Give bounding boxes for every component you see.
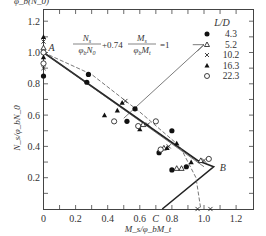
svg-text:=1: =1 xyxy=(160,40,170,50)
legend-label: 5.2 xyxy=(225,40,237,50)
filled-circle-marker xyxy=(184,164,189,169)
filled-triangle-marker xyxy=(102,113,107,118)
svg-text:φbMt: φbMt xyxy=(133,45,150,56)
x-tick-label: 0 xyxy=(41,213,46,224)
filled-circle-marker xyxy=(169,128,174,133)
y-axis-title: N_s/φ_bN_0 xyxy=(12,105,22,152)
cross-marker xyxy=(205,53,209,57)
filled-triangle-marker xyxy=(205,63,210,68)
svg-text:Ms: Ms xyxy=(136,33,148,44)
legend-item: 10.2 xyxy=(205,50,240,60)
open-circle-marker xyxy=(205,74,210,79)
legend-item: 4.3 xyxy=(205,29,238,39)
legend-label: 10.2 xyxy=(223,50,240,60)
equation-annotation: NsφbN0+0.74MsφbMt=1 xyxy=(73,33,170,56)
y-tick-label: 1.0 xyxy=(28,47,41,58)
design-curve-ABC xyxy=(44,53,214,210)
filled-circle-marker xyxy=(124,119,129,124)
svg-text:φbN0: φbN0 xyxy=(79,45,96,56)
y-tick-label: 0.8 xyxy=(28,78,41,89)
open-circle-marker xyxy=(206,156,211,161)
open-circle-marker xyxy=(41,50,46,55)
filled-triangle-marker xyxy=(115,108,120,113)
chart-lines xyxy=(44,45,214,209)
open-triangle-marker xyxy=(205,42,210,47)
x-tick-label: 0.6 xyxy=(134,213,147,224)
x-tick-label: 0.8 xyxy=(166,213,179,224)
open-circle-marker xyxy=(136,123,141,128)
svg-text:Ns: Ns xyxy=(82,33,92,44)
filled-circle-marker xyxy=(132,106,137,111)
dashed-trend xyxy=(44,53,201,210)
y-tick-label: 0.6 xyxy=(28,110,41,121)
x-axis-title: M_s/φ_bM_t xyxy=(124,224,172,234)
point-label-A: A xyxy=(48,42,56,53)
y-tick-label: 0.4 xyxy=(28,141,41,152)
x-tick-label: 0.2 xyxy=(69,213,82,224)
legend-title: L/D xyxy=(213,17,230,28)
open-triangle-marker xyxy=(174,166,179,171)
filled-triangle-marker xyxy=(189,159,194,164)
point-labels: ABC xyxy=(48,42,226,225)
legend-label: 16.3 xyxy=(223,61,240,71)
top-axis-label: φ_b(N_0) xyxy=(14,0,49,6)
y-tick-label: 0.2 xyxy=(28,172,41,183)
open-circle-marker xyxy=(41,61,46,66)
open-triangle-marker xyxy=(179,166,184,171)
legend-label: 4.3 xyxy=(225,29,237,39)
x-tick-label: 1.2 xyxy=(230,213,243,224)
open-circle-marker xyxy=(112,119,117,124)
filled-circle-marker xyxy=(86,72,91,77)
y-tick-label: 1.2 xyxy=(28,16,41,27)
point-label-B: B xyxy=(220,162,226,173)
open-circle-marker xyxy=(158,147,163,152)
axis-ticks xyxy=(44,10,254,210)
open-circle-marker xyxy=(153,119,158,124)
legend: L/D4.35.210.216.322.3 xyxy=(205,17,240,81)
filled-circle-marker xyxy=(41,73,46,78)
filled-circle-marker xyxy=(169,167,174,172)
x-tick-label: 0.4 xyxy=(101,213,114,224)
filled-triangle-marker xyxy=(174,141,179,146)
filled-circle-marker xyxy=(205,32,210,37)
svg-text:+0.74: +0.74 xyxy=(102,40,123,50)
fit-line xyxy=(44,53,205,167)
legend-label: 22.3 xyxy=(223,71,240,81)
point-label-C: C xyxy=(152,213,159,224)
x-tick-label: 1.0 xyxy=(198,213,211,224)
plot-frame xyxy=(44,10,254,210)
open-triangle-marker xyxy=(41,45,46,50)
legend-item: 16.3 xyxy=(205,61,240,71)
leader-arrowhead xyxy=(193,45,204,51)
legend-item: 22.3 xyxy=(205,71,240,81)
chart-canvas: 00.20.40.60.81.01.20.20.40.60.81.01.2 AB… xyxy=(0,0,266,236)
cross-marker xyxy=(123,99,127,103)
legend-item: 5.2 xyxy=(205,40,238,50)
filled-circle-marker xyxy=(84,80,89,85)
